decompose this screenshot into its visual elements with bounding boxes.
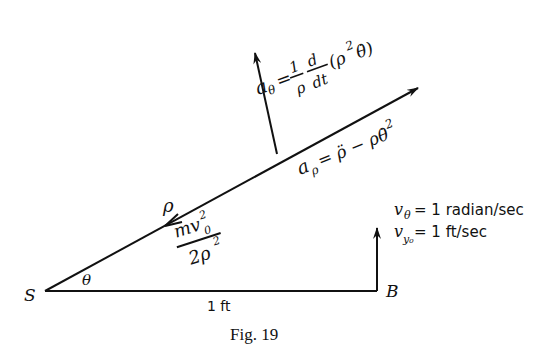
svg-text:ρ: ρ xyxy=(292,78,308,98)
condition-v-theta-sub: θ xyxy=(404,209,411,222)
angle-label: θ xyxy=(82,271,91,289)
transverse-acceleration-label: a θ = 1 ρ d dt (ρ 2 θ̇) xyxy=(250,31,380,111)
svg-text:(ρ: (ρ xyxy=(326,48,348,72)
point-s-label: S xyxy=(24,285,36,305)
initial-conditions: v θ = 1 radian/sec v y₀ = 1 ft/sec xyxy=(394,200,524,246)
svg-text:mv: mv xyxy=(171,213,203,241)
diagram-canvas: S B θ 1 ft ρ mv 0 2 2ρ 2 a ρ = ρ̈ − ρθ̇ … xyxy=(0,0,558,357)
condition-v-y0-value: = 1 ft/sec xyxy=(414,223,487,241)
svg-text:θ̇): θ̇) xyxy=(353,38,376,63)
radial-line xyxy=(45,88,418,291)
svg-text:2ρ: 2ρ xyxy=(185,242,214,269)
condition-v-y0-var: v xyxy=(394,222,403,241)
condition-v-theta-value: = 1 radian/sec xyxy=(414,201,524,219)
figure-caption: Fig. 19 xyxy=(230,325,278,344)
point-b-label: B xyxy=(385,281,399,301)
condition-v-y0-sub: y₀ xyxy=(402,233,414,246)
svg-text:dt: dt xyxy=(309,70,331,93)
svg-text:2: 2 xyxy=(210,234,222,249)
transverse-arrow xyxy=(255,53,277,154)
condition-v-theta-var: v xyxy=(394,200,403,219)
svg-text:= ρ̈ − ρθ̇: = ρ̈ − ρθ̇ xyxy=(314,124,391,171)
base-length-label: 1 ft xyxy=(207,298,231,314)
radius-label: ρ xyxy=(162,195,174,216)
